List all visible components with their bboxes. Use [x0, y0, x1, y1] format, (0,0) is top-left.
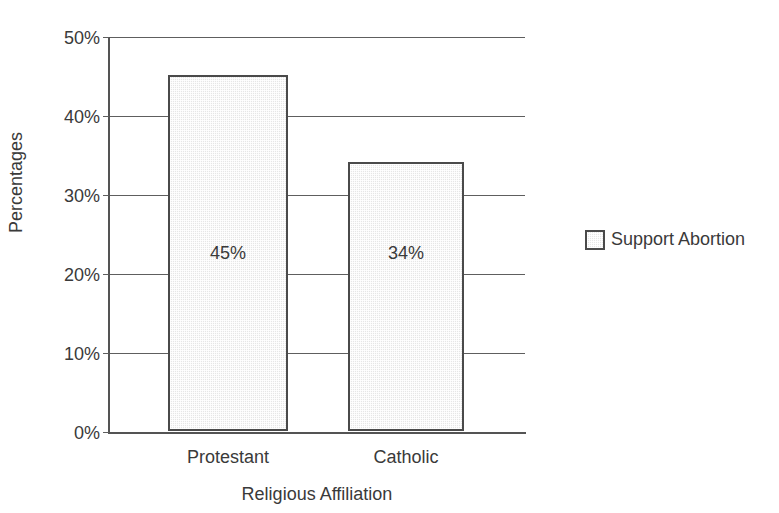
y-tick-40	[103, 116, 109, 117]
bar-chart-figure: 50% 40% 30% 20% 10% 0% Percentages 45% 3…	[0, 0, 779, 513]
bar-value-catholic: 34%	[350, 243, 462, 264]
y-tick-50	[103, 37, 109, 38]
y-tick-label-20: 20%	[28, 266, 100, 284]
y-tick-label-10: 10%	[28, 345, 100, 363]
bar-value-protestant: 45%	[170, 243, 286, 264]
chart-title-clipped	[0, 0, 779, 3]
y-tick-30	[103, 195, 109, 196]
y-axis-line	[108, 37, 110, 434]
x-axis-line	[108, 432, 526, 434]
legend-swatch-support-abortion	[585, 230, 605, 250]
y-tick-label-40: 40%	[28, 108, 100, 126]
plot-area: 45% 34% Protestant Catholic	[108, 37, 525, 433]
y-tick-label-30: 30%	[28, 187, 100, 205]
y-tick-10	[103, 353, 109, 354]
y-axis-title: Percentages	[6, 103, 27, 263]
gridline-50	[110, 37, 525, 38]
x-axis-title: Religious Affiliation	[108, 484, 526, 505]
bar-catholic[interactable]: 34%	[348, 162, 464, 431]
y-tick-0	[103, 432, 109, 433]
y-tick-label-50: 50%	[28, 29, 100, 47]
x-tick-label-protestant: Protestant	[128, 447, 328, 468]
bar-protestant[interactable]: 45%	[168, 75, 288, 431]
legend-label-support-abortion: Support Abortion	[611, 229, 745, 250]
y-tick-20	[103, 274, 109, 275]
x-tick-label-catholic: Catholic	[306, 447, 506, 468]
y-tick-label-0: 0%	[28, 424, 100, 442]
chart-legend: Support Abortion	[585, 229, 745, 250]
